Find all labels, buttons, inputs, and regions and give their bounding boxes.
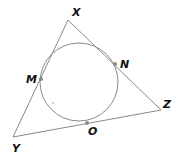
point-label-n: N <box>120 58 129 71</box>
point-label-m: M <box>26 73 37 86</box>
tangent-point-m <box>39 77 43 81</box>
inscribed-circle <box>40 43 118 121</box>
point-label-o: O <box>88 125 97 138</box>
vertex-label-x: X <box>71 6 81 19</box>
vertex-label-y: Y <box>12 142 21 155</box>
incircle-diagram: X Y Z M N O <box>0 0 180 159</box>
tangent-point-n <box>113 62 117 66</box>
vertex-label-z: Z <box>162 98 172 111</box>
